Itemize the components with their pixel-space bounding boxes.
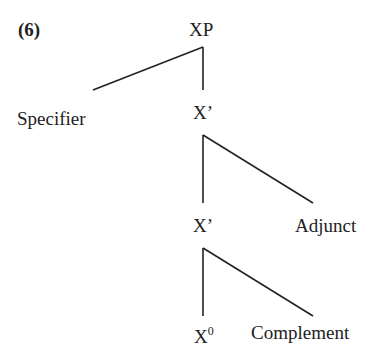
branch-xp-specifier xyxy=(93,47,203,90)
node-complement: Complement xyxy=(251,323,349,342)
node-xp: XP xyxy=(189,20,213,39)
tree-branches xyxy=(0,0,381,356)
branch-xbar-adjunct xyxy=(203,135,313,203)
node-head: X0 xyxy=(194,327,214,346)
node-specifier: Specifier xyxy=(17,109,86,128)
branch-xbar-complement xyxy=(203,248,313,316)
node-xbar-lower: X’ xyxy=(193,216,213,235)
head-superscript: 0 xyxy=(208,324,214,338)
head-label: X xyxy=(194,326,208,347)
node-xbar-upper: X’ xyxy=(193,103,213,122)
node-adjunct: Adjunct xyxy=(295,216,356,235)
